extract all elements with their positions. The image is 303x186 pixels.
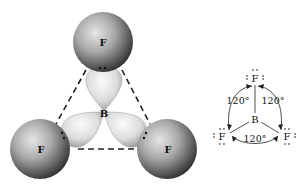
bond-right: [261, 122, 279, 133]
bond-left: [230, 122, 249, 133]
atom-f-bottom-left: F: [10, 119, 70, 179]
lewis-atom-f-left: F: [219, 131, 226, 142]
atom-label: F: [164, 144, 171, 155]
atom-label: F: [37, 144, 44, 155]
central-atom-label: B: [100, 108, 108, 119]
lewis-atom-f-top: F: [252, 73, 259, 84]
lewis-atom-b: B: [251, 114, 258, 125]
angle-label-upper-left: 120°: [227, 95, 250, 106]
atom-f-bottom-right: F: [137, 119, 197, 179]
angle-label-upper-right: 120°: [262, 95, 285, 106]
angle-arc-upper-right: [258, 86, 281, 130]
lewis-structure: F B F F 120° 120° 120°: [213, 69, 296, 145]
lewis-atom-f-right: F: [284, 131, 291, 142]
bond-lobe-top: [86, 66, 122, 111]
angle-arc-upper-left: [229, 86, 252, 130]
bf3-diagram: F F F B: [0, 0, 303, 186]
molecular-model: F F F B: [10, 12, 197, 179]
atom-f-top: F: [73, 12, 133, 72]
atom-label: F: [99, 37, 106, 48]
angle-label-bottom: 120°: [244, 133, 267, 144]
